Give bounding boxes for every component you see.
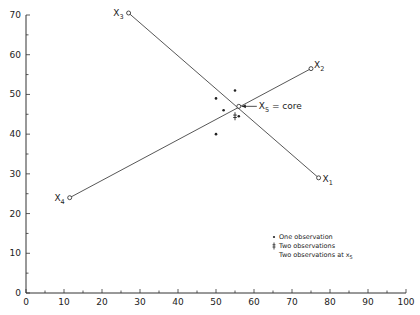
point-x1-icon [317, 176, 321, 180]
legend: One observationTwo observationsTwo obser… [273, 233, 353, 260]
y-tick-label: 50 [10, 89, 22, 99]
x-tick-label: 20 [96, 297, 108, 307]
one-observation-dot [222, 109, 225, 112]
y-tick-label: 0 [15, 288, 21, 298]
x-tick-label: 40 [172, 297, 184, 307]
two-observation-marker [233, 112, 237, 120]
x-tick-label: 90 [362, 297, 374, 307]
y-tick-label: 70 [10, 10, 22, 20]
y-tick-label: 40 [10, 129, 22, 139]
point-label-x3: X3 [113, 8, 123, 21]
x-tick-label: 60 [248, 297, 260, 307]
point-x5-icon [237, 104, 241, 108]
x-tick-label: 10 [58, 297, 70, 307]
one-observation-dot [215, 133, 218, 136]
one-observation-dot [215, 97, 218, 100]
legend-label: One observation [279, 233, 333, 241]
core-label: X5 = core [259, 101, 303, 114]
legend-dot-icon [273, 236, 275, 238]
one-observation-dot [234, 89, 237, 92]
y-tick-label: 60 [10, 50, 22, 60]
point-label-x4: X4 [54, 193, 64, 206]
observation-points [215, 89, 240, 135]
x-tick-label: 70 [286, 297, 298, 307]
axes: 0102030405060708090100010203040506070 [10, 10, 415, 307]
chart: 0102030405060708090100010203040506070 X1… [0, 0, 420, 315]
x-tick-label: 80 [324, 297, 336, 307]
x-tick-label: 0 [23, 297, 29, 307]
y-tick-label: 30 [10, 169, 22, 179]
x-tick-label: 100 [397, 297, 414, 307]
line-x4-x2 [70, 69, 311, 198]
point-label-x1: X1 [323, 174, 333, 187]
legend-label: Two observations at x5 [278, 251, 353, 260]
x-tick-label: 30 [134, 297, 146, 307]
point-label-x2: X2 [314, 60, 324, 73]
legend-label: Two observations [278, 242, 336, 250]
y-tick-label: 10 [10, 248, 22, 258]
x-tick-label: 50 [210, 297, 222, 307]
one-observation-dot [238, 115, 241, 118]
legend-double-cross-icon [273, 243, 276, 250]
point-x3-icon [127, 11, 131, 15]
core-annotation: X5 = core [242, 101, 303, 114]
point-x2-icon [309, 67, 313, 71]
line-x3-x1 [129, 13, 319, 178]
point-x4-icon [68, 196, 72, 200]
y-tick-label: 20 [10, 209, 22, 219]
